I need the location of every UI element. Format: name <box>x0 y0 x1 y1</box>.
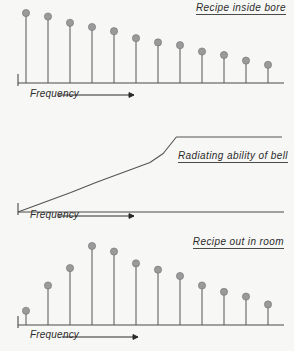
axis-baseline <box>18 74 284 86</box>
stem-head <box>22 307 29 314</box>
stem-head <box>110 28 117 35</box>
stem-head <box>198 282 205 289</box>
stem-head <box>176 272 183 279</box>
stem-head <box>176 42 183 49</box>
panel-recipe-inside-bore: Recipe inside bore Frequency <box>0 0 294 110</box>
stem-head <box>88 242 95 249</box>
stem-head <box>66 265 73 272</box>
x-axis-label-0: Frequency <box>30 88 79 99</box>
stem-head <box>264 61 271 68</box>
stem-head <box>220 288 227 295</box>
stem-head <box>242 57 249 64</box>
stem-head <box>88 23 95 30</box>
stem-head <box>66 19 73 26</box>
response-curve <box>18 137 282 212</box>
stem-head <box>242 293 249 300</box>
stem-head <box>132 260 139 267</box>
panel-radiating-ability-of-bell: Radiating ability of bell Frequency <box>0 110 294 228</box>
stem-head <box>220 51 227 58</box>
stem-head <box>198 48 205 55</box>
panel-recipe-out-in-room: Recipe out in room Frequency <box>0 228 294 351</box>
stem-head <box>264 301 271 308</box>
x-axis-label-2: Frequency <box>30 329 79 340</box>
stem-head <box>44 13 51 20</box>
stem-head <box>44 282 51 289</box>
stem-head <box>154 266 161 273</box>
three-panel-spectrum-figure: Recipe inside bore Frequency Radiating a… <box>0 0 294 351</box>
stem-head <box>154 39 161 46</box>
x-axis-label-1: Frequency <box>30 209 79 220</box>
stem-head <box>132 35 139 42</box>
stem-head <box>110 248 117 255</box>
stem-head <box>22 9 29 16</box>
axis-baseline <box>18 316 284 328</box>
